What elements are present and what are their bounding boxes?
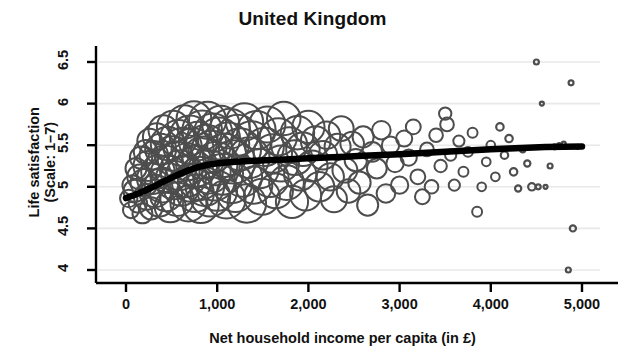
x-tick-label: 1,000 [199, 296, 235, 312]
data-point [548, 164, 553, 169]
y-tick-label: 5 [55, 165, 71, 205]
data-point [458, 167, 468, 177]
data-point [391, 176, 408, 193]
data-point [345, 149, 367, 171]
data-point [510, 168, 517, 175]
x-tick-label: 3,000 [381, 296, 417, 312]
data-point [449, 180, 460, 191]
data-point [491, 172, 500, 181]
data-point [569, 80, 574, 85]
x-tick-label: 4,000 [473, 296, 509, 312]
chart-figure: United Kingdom Life satisfaction (Scale:… [0, 0, 625, 360]
data-point [410, 169, 425, 184]
data-point [472, 207, 482, 217]
y-tick-label: 6.5 [55, 40, 71, 80]
y-tick-label: 5.5 [55, 123, 71, 163]
data-point [434, 160, 446, 172]
data-point [482, 158, 491, 167]
data-point [501, 151, 508, 158]
y-tick-label: 4 [55, 248, 71, 288]
data-point [524, 160, 530, 166]
y-tick-label: 6 [55, 82, 71, 122]
data-point [515, 185, 521, 191]
y-tick-label: 4.5 [55, 206, 71, 246]
data-point [357, 195, 378, 216]
x-tick-label: 2,000 [290, 296, 326, 312]
data-point [429, 128, 443, 142]
x-tick-label: 5,000 [564, 296, 600, 312]
data-point [496, 123, 503, 130]
data-point [406, 119, 421, 134]
data-point [468, 128, 478, 138]
data-points-group [120, 60, 579, 273]
data-point [505, 135, 512, 142]
x-tick-label: 0 [122, 296, 130, 312]
